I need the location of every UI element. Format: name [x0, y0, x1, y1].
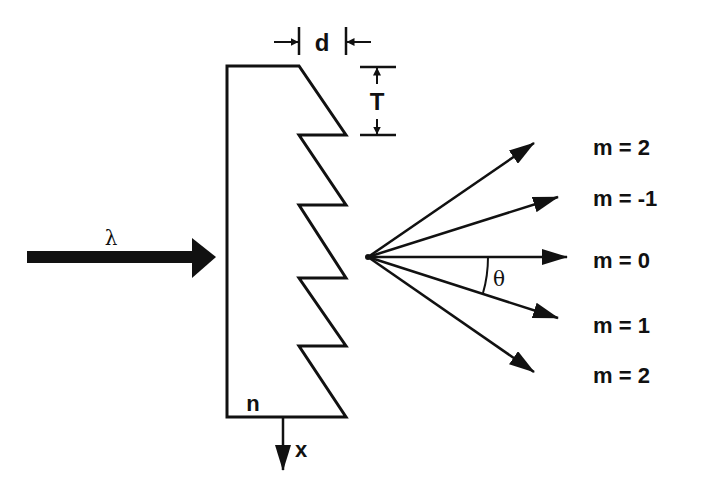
angle-indicator: θ	[483, 257, 505, 293]
refractive-index-label: n	[246, 391, 259, 416]
x-axis-label: x	[295, 437, 308, 462]
order-arrow-2-icon	[368, 197, 558, 257]
period-label: d	[315, 29, 330, 56]
order-labels: m = 2 m = -1 m = 0 m = 1 m = 2	[593, 135, 657, 388]
incident-beam-shaft	[27, 251, 195, 263]
period-dimension: d	[274, 27, 371, 56]
angle-label: θ	[493, 267, 505, 291]
order-label-4: m = 1	[593, 313, 650, 338]
incident-beam-arrowhead-icon	[192, 238, 216, 278]
order-label-3: m = 0	[593, 248, 650, 273]
order-arrow-5-icon	[368, 257, 534, 372]
order-arrow-1-icon	[368, 143, 534, 257]
grating-body	[227, 66, 346, 417]
step-height-label: T	[370, 88, 385, 115]
diffraction-grating-diagram: λ n d T x θ m = 2 m = -1	[0, 0, 724, 493]
order-label-2: m = -1	[593, 186, 657, 211]
diffracted-beams	[365, 143, 567, 372]
x-axis: x	[283, 418, 308, 470]
step-height-dimension: T	[360, 67, 396, 135]
wavelength-label: λ	[105, 226, 118, 250]
incident-beam: λ	[27, 226, 216, 278]
order-arrow-4-icon	[368, 257, 558, 318]
order-label-1: m = 2	[593, 135, 650, 160]
angle-arc	[483, 257, 488, 293]
order-label-5: m = 2	[593, 363, 650, 388]
